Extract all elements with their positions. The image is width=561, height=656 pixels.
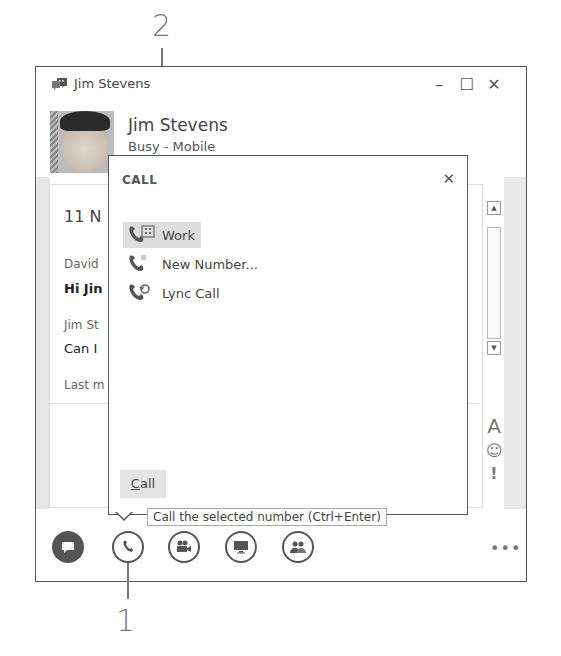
avatar-hair [60,111,110,131]
call-button[interactable] [112,531,144,563]
menu-item-lync-call[interactable]: Lync Call [123,280,226,306]
call-submit-button[interactable]: Call [120,470,166,498]
message-sender: Jim St [64,318,99,332]
participants-button[interactable] [282,531,314,563]
contact-name[interactable]: Jim Stevens [128,115,228,135]
message-text: Hi Jin [64,281,102,296]
presence-bar [50,111,58,173]
popup-title: CALL [122,173,157,187]
menu-item-label: Work [162,228,195,243]
message-text: Can I [64,341,97,356]
conversation-date: 11 N [64,207,101,226]
last-message-info: Last m [64,378,105,392]
menu-item-label: Lync Call [162,286,220,301]
menu-item-label: New Number... [162,257,258,272]
window-title: Jim Stevens [74,76,150,91]
title-bar: Jim Stevens – ☐ ✕ [36,67,526,105]
phone-lync-icon [127,282,159,304]
scroll-up-button[interactable]: ▲ [487,201,501,215]
phone-new-number-icon [127,253,159,275]
priority-icon[interactable]: ! [486,464,502,483]
scrollbar-track[interactable] [487,227,501,339]
monitor-icon [232,539,250,555]
popup-close-button[interactable]: ✕ [442,170,455,188]
callout-number-2: 2 [152,8,171,43]
contact-status: Busy - Mobile [128,139,215,154]
phone-work-icon [127,224,159,246]
scroll-down-button[interactable]: ▼ [487,341,501,355]
phone-icon [120,539,136,555]
im-button[interactable] [52,531,84,563]
close-button[interactable]: ✕ [484,75,504,94]
emoticon-icon[interactable]: ☺ [486,441,502,460]
call-button-label: all [140,476,155,491]
lync-conversation-icon [51,76,69,92]
conversation-left-gutter [36,177,50,509]
menu-item-work[interactable]: Work [123,222,201,248]
callout-number-1: 1 [116,603,135,638]
video-button[interactable] [168,531,200,563]
minimize-button[interactable]: – [429,75,449,94]
popup-pointer-inner [116,511,132,519]
maximize-button[interactable]: ☐ [457,75,477,94]
chat-bubble-icon [60,539,76,555]
video-camera-icon [175,539,193,555]
menu-item-new-number[interactable]: New Number... [123,251,264,277]
call-popup: CALL ✕ Work New Number... Lync Call Call [108,155,468,515]
conversation-right-gutter [504,177,526,509]
present-button[interactable] [225,531,257,563]
message-sender: David [64,257,99,271]
access-key: C [131,476,140,491]
contact-avatar[interactable] [50,111,114,173]
people-icon [289,539,307,555]
font-icon[interactable]: A [486,414,502,438]
callout-line-1 [127,563,129,599]
call-tooltip: Call the selected number (Ctrl+Enter) [147,508,387,526]
more-options-button[interactable]: ••• [490,539,521,558]
